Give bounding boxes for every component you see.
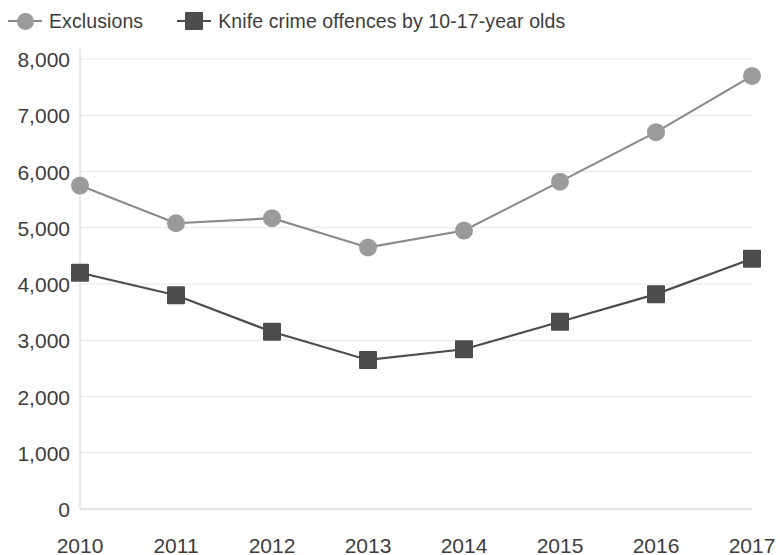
- x-axis-tick-label: 2011: [131, 535, 221, 555]
- data-point-marker[interactable]: [167, 214, 185, 232]
- legend-label-exclusions: Exclusions: [49, 10, 143, 33]
- x-axis-tick-label: 2014: [419, 535, 509, 555]
- data-point-marker[interactable]: [71, 264, 89, 282]
- data-point-marker[interactable]: [551, 173, 569, 191]
- data-point-marker[interactable]: [359, 351, 377, 369]
- legend-label-knife-crime: Knife crime offences by 10-17-year olds: [218, 10, 565, 33]
- data-point-marker[interactable]: [647, 123, 665, 141]
- x-axis-tick-label: 2013: [323, 535, 413, 555]
- data-point-marker[interactable]: [71, 177, 89, 195]
- x-axis-tick-label: 2015: [515, 535, 605, 555]
- data-point-marker[interactable]: [455, 340, 473, 358]
- legend-item-knife-crime[interactable]: Knife crime offences by 10-17-year olds: [177, 10, 565, 33]
- y-axis-tick-label: 0: [0, 499, 70, 520]
- data-point-marker[interactable]: [743, 250, 761, 268]
- data-point-marker[interactable]: [359, 238, 377, 256]
- data-point-marker[interactable]: [455, 222, 473, 240]
- data-point-marker[interactable]: [743, 67, 761, 85]
- y-axis-tick-label: 8,000: [0, 49, 70, 70]
- plot-area: 8,0007,0006,0005,0004,0003,0002,0001,000…: [0, 38, 765, 555]
- y-axis-tick-label: 1,000: [0, 442, 70, 463]
- data-point-marker[interactable]: [551, 313, 569, 331]
- data-point-marker[interactable]: [263, 209, 281, 227]
- data-point-marker[interactable]: [647, 285, 665, 303]
- legend-item-exclusions[interactable]: Exclusions: [8, 10, 143, 33]
- data-series-layer: [71, 67, 761, 369]
- y-axis-tick-label: 2,000: [0, 386, 70, 407]
- square-marker-icon: [177, 10, 211, 32]
- y-axis-tick-label: 7,000: [0, 105, 70, 126]
- x-axis-tick-label: 2010: [35, 535, 125, 555]
- data-point-marker[interactable]: [263, 323, 281, 341]
- x-axis-tick-label: 2016: [611, 535, 701, 555]
- axis-lines: [80, 49, 752, 509]
- y-axis-tick-label: 3,000: [0, 330, 70, 351]
- data-point-marker[interactable]: [167, 286, 185, 304]
- x-axis-tick-label: 2017: [707, 535, 780, 555]
- chart-svg: [0, 38, 765, 555]
- y-axis-tick-label: 5,000: [0, 217, 70, 238]
- chart-legend: Exclusions Knife crime offences by 10-17…: [8, 4, 565, 38]
- circle-marker-icon: [8, 10, 42, 32]
- x-axis-tick-label: 2012: [227, 535, 317, 555]
- y-axis-tick-label: 6,000: [0, 161, 70, 182]
- y-axis-tick-label: 4,000: [0, 274, 70, 295]
- series-line-knife-crime: [80, 259, 752, 360]
